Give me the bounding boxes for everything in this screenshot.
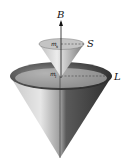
label-l: L	[113, 71, 121, 82]
label-ms-sub: s	[56, 44, 58, 49]
label-s: S	[87, 38, 94, 49]
cone-diagram: B S L m s m l	[0, 0, 130, 167]
label-b: B	[56, 9, 64, 20]
